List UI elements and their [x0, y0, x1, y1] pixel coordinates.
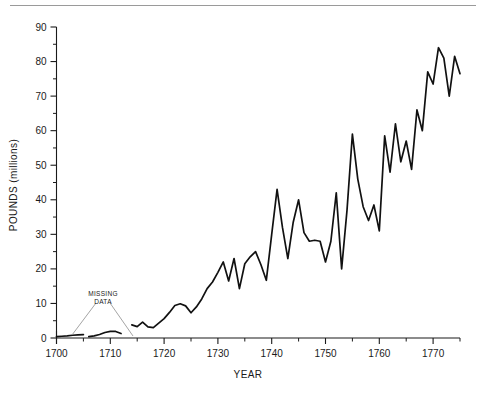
x-tick-label-1730: 1730 — [207, 348, 230, 359]
y-axis: 0102030405060708090 POUNDS (millions) — [8, 22, 57, 344]
x-tick-label-1760: 1760 — [368, 348, 391, 359]
y-axis-tick-labels: 0102030405060708090 — [35, 22, 47, 344]
y-tick-label-30: 30 — [35, 229, 47, 240]
x-tick-label-1770: 1770 — [422, 348, 445, 359]
x-axis-title: YEAR — [234, 369, 263, 380]
tobacco-imports-line-chart: 0102030405060708090 POUNDS (millions) 17… — [0, 0, 483, 394]
series-segment-segment-1700-1705 — [57, 335, 84, 337]
missing-data-label-line1: MISSING — [88, 290, 118, 297]
annotation-layer: MISSINGDATA — [72, 290, 133, 336]
y-tick-label-70: 70 — [35, 91, 47, 102]
series-segment-segment-1714-1775 — [132, 48, 460, 328]
x-tick-label-1720: 1720 — [153, 348, 176, 359]
y-tick-label-50: 50 — [35, 160, 47, 171]
y-axis-title: POUNDS (millions) — [8, 139, 19, 231]
y-tick-label-90: 90 — [35, 22, 47, 33]
x-tick-label-1750: 1750 — [314, 348, 337, 359]
x-tick-label-1710: 1710 — [99, 348, 122, 359]
missing-data-leader-1 — [72, 303, 96, 335]
series-segment-segment-1706-1712 — [89, 331, 121, 336]
y-tick-label-20: 20 — [35, 263, 47, 274]
y-tick-label-60: 60 — [35, 125, 47, 136]
missing-data-label-line2: DATA — [94, 298, 112, 305]
y-tick-label-80: 80 — [35, 56, 47, 67]
x-tick-label-1740: 1740 — [261, 348, 284, 359]
y-tick-label-10: 10 — [35, 298, 47, 309]
x-axis-tick-labels: 17001710172017301740175017601770 — [45, 348, 444, 359]
x-axis: 17001710172017301740175017601770 YEAR — [45, 331, 460, 380]
x-tick-label-1700: 1700 — [45, 348, 68, 359]
y-tick-label-0: 0 — [41, 333, 47, 344]
y-tick-label-40: 40 — [35, 194, 47, 205]
chart-figure: 0102030405060708090 POUNDS (millions) 17… — [0, 0, 483, 394]
